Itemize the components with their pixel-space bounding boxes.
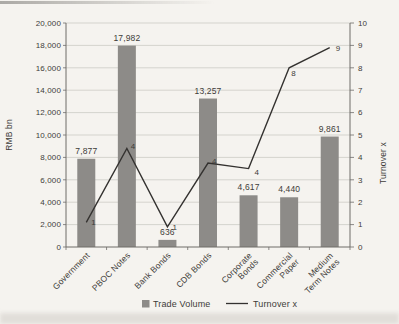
left-axis-tick-label: 2,000 — [40, 220, 61, 229]
x-axis-label-bank-bonds: Bank Bonds — [132, 250, 173, 291]
bar-bank-bonds — [158, 240, 176, 247]
x-axis-label-commercial-paper: CommercialPaper — [254, 250, 301, 297]
x-axis-label-pboc-notes: PBOC Notes — [90, 250, 133, 293]
bar-government — [77, 159, 95, 247]
trade-volume-bars — [77, 46, 338, 247]
right-axis-tick-label: 9 — [358, 41, 363, 50]
left-axis-tick-label: 10,000 — [36, 131, 62, 140]
bar-value-label-cdb-bonds: 13,257 — [195, 86, 222, 96]
bar-medium-term-notes — [321, 137, 339, 247]
legend-trade-volume-swatch — [142, 300, 150, 308]
line-value-label-commercial-paper: 8 — [291, 69, 296, 78]
right-axis-tick-label: 1 — [358, 220, 363, 229]
bar-value-label-medium-term-notes: 9,861 — [319, 124, 341, 134]
x-axis-label-cdb-bonds: CDB Bonds — [174, 250, 213, 289]
line-value-label-corporate-bonds: 4 — [255, 168, 260, 177]
right-axis-tick-label: 10 — [358, 19, 368, 28]
legend-trade-volume-label: Trade Volume — [153, 299, 211, 309]
bar-value-label-government: 7,877 — [75, 146, 97, 156]
right-axis-tick-label: 0 — [358, 243, 363, 252]
legend-turnover-label: Turnover x — [253, 299, 298, 309]
right-axis-tick-label: 6 — [358, 108, 363, 117]
right-axis-tick-label: 8 — [358, 64, 363, 73]
right-axis-tick-label: 4 — [358, 153, 363, 162]
x-axis-label-medium-term-notes: MediumTerm Notes — [296, 250, 341, 295]
bar-corporate-bonds — [240, 195, 258, 247]
trade-volume-turnover-chart: 02,0004,0006,0008,00010,00012,00014,0001… — [0, 0, 399, 324]
x-axis-label-corporate-bonds: CorporateBonds — [219, 250, 260, 291]
left-axis-tick-label: 6,000 — [40, 176, 61, 185]
left-axis-tick-label: 0 — [56, 243, 61, 252]
line-value-label-government: 1 — [91, 218, 96, 227]
line-value-label-bank-bonds: 1 — [172, 223, 177, 232]
left-axis-tick-label: 14,000 — [36, 86, 62, 95]
bar-value-label-commercial-paper: 4,440 — [278, 184, 300, 194]
right-axis-tick-label: 5 — [358, 131, 363, 140]
legend: Trade Volume Turnover x — [142, 299, 298, 309]
left-axis-tick-label: 8,000 — [40, 153, 61, 162]
left-axis-tick-label: 12,000 — [36, 108, 62, 117]
scanned-chart-page: 02,0004,0006,0008,00010,00012,00014,0001… — [0, 0, 399, 324]
left-axis-tick-label: 20,000 — [36, 19, 62, 28]
bar-value-label-pboc-notes: 17,982 — [113, 33, 140, 43]
line-value-label-pboc-notes: 4 — [131, 142, 136, 151]
scan-artifact-bottom — [0, 313, 399, 324]
right-axis-tick-label: 3 — [358, 176, 363, 185]
left-axis-tick-label: 18,000 — [36, 41, 62, 50]
bar-value-label-corporate-bonds: 4,617 — [238, 182, 260, 192]
left-axis-title: RMB bn — [4, 119, 14, 151]
line-value-label-medium-term-notes: 9 — [336, 44, 341, 53]
x-axis-label-government: Government — [50, 250, 92, 292]
left-axis-tick-label: 16,000 — [36, 64, 62, 73]
right-axis-tick-label: 2 — [358, 198, 363, 207]
right-axis-title: Turnover x — [378, 141, 388, 183]
line-value-label-cdb-bonds: 4 — [212, 157, 217, 166]
bar-commercial-paper — [280, 197, 298, 247]
left-axis-tick-label: 4,000 — [40, 198, 61, 207]
right-axis-tick-label: 7 — [358, 86, 363, 95]
